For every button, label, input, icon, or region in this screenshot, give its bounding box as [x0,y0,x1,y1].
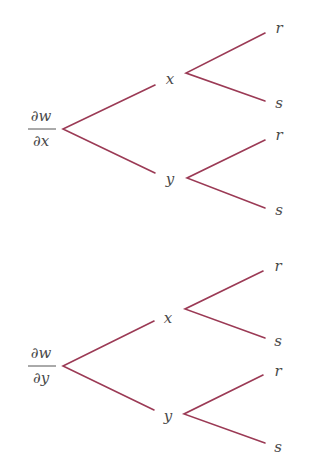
leaf-r: r [274,257,282,275]
leaf-s: s [275,201,283,219]
x-branches [186,33,265,101]
node-y: y [163,407,173,425]
root-fraction-dw-dx: ∂w ∂x [28,107,56,150]
tree-diagrams: ∂w ∂x x r s y r s ∂w ∂y x r s y r s [0,0,315,475]
node-y: y [165,170,175,188]
x-branches [185,271,265,338]
fraction-denominator: ∂y [33,369,50,387]
root-branches [63,85,155,173]
leaf-r: r [275,126,283,144]
leaf-s: s [275,94,283,112]
root-fraction-dw-dy: ∂w ∂y [28,344,56,387]
leaf-s: s [274,438,282,456]
y-branches [187,140,265,208]
node-x: x [164,309,173,327]
y-branches [184,375,265,443]
tree-dw-dx: ∂w ∂x x r s y r s [28,19,283,219]
tree-dw-dy: ∂w ∂y x r s y r s [28,257,282,456]
node-x: x [166,70,175,88]
leaf-r: r [275,19,283,37]
leaf-s: s [274,332,282,350]
root-branches [63,321,154,410]
fraction-numerator: ∂w [31,107,52,125]
fraction-denominator: ∂x [33,132,50,150]
leaf-r: r [274,362,282,380]
fraction-numerator: ∂w [31,344,52,362]
